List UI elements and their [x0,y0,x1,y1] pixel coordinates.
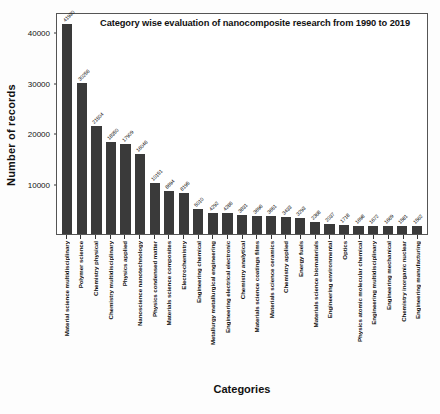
bar-cell: 3831 [235,14,250,234]
x-label-cell: Chemistry multidisciplinary [103,241,118,379]
bar-cell: 16046 [133,14,148,234]
bar-value-label: 4286 [222,200,234,212]
x-label-cell: Materials science composites [161,241,176,379]
bar-cell: 1562 [410,14,425,234]
x-axis-tick-mark [417,235,418,239]
bar-value-label: 8195 [179,180,191,192]
y-axis-tick-label: 40000 [28,29,50,38]
bar: 3433 [281,217,291,234]
x-axis-tick-mark [66,235,67,239]
bar: 10151 [150,183,160,234]
bar: 30256 [77,83,87,234]
x-axis-tick-mark [403,235,404,239]
bar-cell: 8694 [162,14,177,234]
bar: 21504 [91,126,101,234]
bar: 3696 [252,216,262,234]
x-axis-tick-mark [256,235,257,239]
x-label-cell: Physics atomic molecular chemical [352,241,367,379]
x-axis-tick-mark [183,235,184,239]
bar-cell: 17909 [118,14,133,234]
bar-cell: 4286 [220,14,235,234]
bar: 3651 [266,216,276,234]
bar: 1698 [353,226,363,234]
x-label-cell: Engineering multidisciplinary [366,241,381,379]
plot-area: Category wise evaluation of nanocomposit… [56,13,428,235]
x-axis-category-label: Chemistry multidisciplinary [107,241,114,319]
x-axis-tick-mark [212,235,213,239]
x-axis-category-label: Materials science ceramics [268,241,275,318]
x-axis-tick-mark [329,235,330,239]
x-label-cell: Materials science coatings films [249,241,264,379]
bar-value-label: 3293 [295,205,307,217]
bar-value-label: 1698 [353,213,365,225]
bar: 5010 [193,209,203,234]
bar-cell: 1672 [366,14,381,234]
x-axis-tick-mark [95,235,96,239]
x-axis-tick-mark [285,235,286,239]
bar-cell: 5010 [191,14,206,234]
bar: 2037 [324,224,334,234]
bar-value-label: 3651 [266,203,278,215]
x-axis-category-label: Material science multidisciplinary [63,241,70,336]
bar-value-label: 4292 [208,200,220,212]
x-axis-category-label: Polymer science [77,241,84,288]
x-axis-tick-mark [242,235,243,239]
x-label-cell: Nanoscience nanotechnology [132,241,147,379]
bar: 8195 [179,193,189,234]
bar-value-label: 2368 [310,209,322,221]
bar-value-label: 3433 [280,204,292,216]
bar-cell: 3433 [278,14,293,234]
x-axis-tick-mark [373,235,374,239]
bar: 8694 [164,191,174,234]
y-axis-tick-label: 30000 [28,79,50,88]
bar-cell: 2037 [322,14,337,234]
x-axis-category-label: Electrochemistry [180,241,187,290]
bar-chart-figure: Number of records 10000200003000040000 C… [0,0,440,414]
x-axis-category-label: Chemistry applied [282,241,289,293]
x-label-cell: Engineering mechanical [381,241,396,379]
x-label-cell: Optics [337,241,352,379]
x-axis-tick-mark [154,235,155,239]
x-axis-tick-mark [344,235,345,239]
x-axis-category-label: Engineering mechanical [385,241,392,310]
x-axis-category-label: Engineering environmental [326,241,333,318]
x-axis-category-label: Materials science coatings films [253,241,260,332]
x-label-cell: Chemistry physical [88,241,103,379]
x-label-cell: Material science multidisciplinary [59,241,74,379]
x-label-cell: Physics applied [118,241,133,379]
x-label-cell: Materials science biomaterials [308,241,323,379]
bar: 16046 [135,154,145,234]
bar-cell: 18350 [104,14,119,234]
bar-cell: 21504 [89,14,104,234]
bar: 1718 [339,225,349,234]
x-axis-category-label: Metallurgy metallurgical engineering [209,241,216,345]
bar: 1562 [412,226,422,234]
x-axis-category-labels: Material science multidisciplinaryPolyme… [56,241,428,379]
x-axis-tick-mark [271,235,272,239]
x-axis-category-label: Physics condensed matter [151,241,158,317]
x-axis-tick-mark [168,235,169,239]
x-axis-tick-mark [198,235,199,239]
x-axis-tick-mark [139,235,140,239]
bar-cell: 1698 [351,14,366,234]
x-axis-category-label: Engineering manufacturing [414,241,421,319]
bar: 3293 [295,218,305,234]
x-label-cell: Polymer science [74,241,89,379]
bar-value-label: 1562 [412,213,424,225]
bar: 41930 [62,24,72,234]
bar-value-label: 3696 [251,203,263,215]
y-axis-tick-label: 20000 [28,130,50,139]
bar: 4292 [208,213,218,234]
x-axis-tick-mark [388,235,389,239]
bar: 2368 [310,222,320,234]
x-axis-category-label: Engineering chemical [195,241,202,303]
bar-value-label: 1669 [382,213,394,225]
x-axis-category-label: Physics applied [121,241,128,286]
x-axis-category-label: Engineering multidisciplinary [370,241,377,325]
x-axis-title: Categories [56,383,428,395]
bar-value-label: 8694 [164,178,176,190]
bar: 1669 [383,226,393,234]
x-label-cell: Chemistry applied [279,241,294,379]
x-axis-category-label: Optics [341,241,348,260]
bar-series: 4193030256215041835017909160461015186948… [57,14,427,234]
